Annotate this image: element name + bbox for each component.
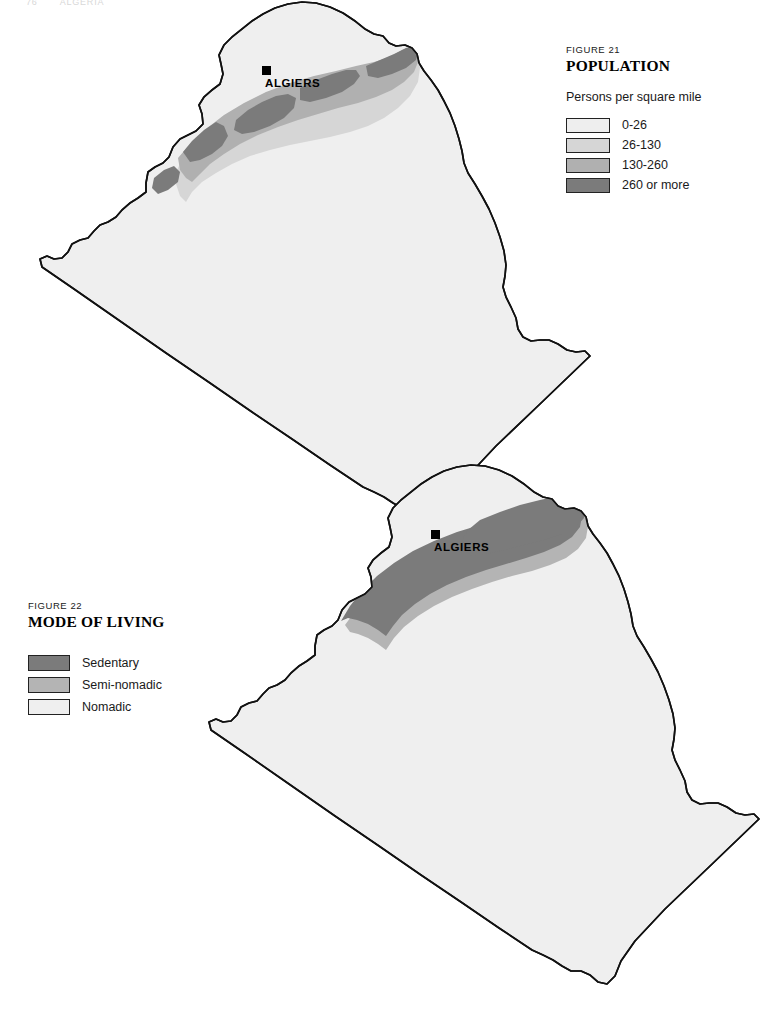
legend-label-sedentary: Sedentary xyxy=(82,656,139,670)
legend-swatch-nomadic xyxy=(28,699,70,715)
city-marker-algiers-modeofliving[interactable] xyxy=(431,530,440,539)
legend-label-semi-nomadic: Semi-nomadic xyxy=(82,678,162,692)
legend-modeofliving-items: Sedentary Semi-nomadic Nomadic xyxy=(28,652,238,718)
legend-swatch-semi-nomadic xyxy=(28,677,70,693)
legend-modeofliving-title: MODE OF LIVING xyxy=(28,613,238,630)
map-modeofliving[interactable] xyxy=(0,0,782,1016)
legend-label-nomadic: Nomadic xyxy=(82,700,131,714)
legend-swatch-sedentary xyxy=(28,655,70,671)
legend-modeofliving: FIGURE 22 MODE OF LIVING Sedentary Semi-… xyxy=(28,600,238,718)
legend-modeofliving-figure-no: FIGURE 22 xyxy=(28,600,238,612)
legend-row[interactable]: Semi-nomadic xyxy=(28,674,238,696)
document-page: 76ALGERIA xyxy=(0,0,782,1016)
legend-row[interactable]: Sedentary xyxy=(28,652,238,674)
city-label-algiers-modeofliving: ALGIERS xyxy=(434,541,489,553)
legend-row[interactable]: Nomadic xyxy=(28,696,238,718)
